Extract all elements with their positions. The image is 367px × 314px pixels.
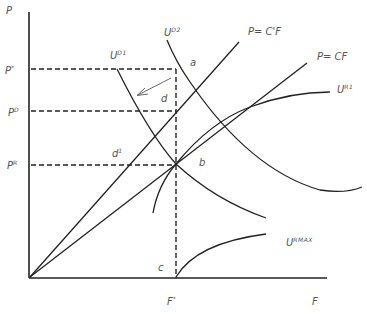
f-star-label: F*: [167, 296, 176, 307]
p-r-label: PR: [7, 160, 18, 171]
arrow-head-icon: [137, 88, 148, 96]
p-star-label: P*: [5, 65, 15, 76]
line-c-prime: [30, 42, 239, 277]
curve-u-r1: [153, 92, 330, 213]
u-r1-label: UR1: [337, 84, 353, 95]
y-axis-label: P: [6, 6, 12, 16]
curve-u-d2: [167, 40, 362, 191]
point-a-label: a: [190, 58, 196, 68]
point-b-label: b: [199, 158, 205, 168]
line-c-prime-label: P= C'F: [248, 27, 281, 37]
point-d1-label: d1: [112, 148, 123, 159]
curve-u-d1: [117, 69, 266, 218]
u-d2-label: UD2: [164, 27, 181, 38]
economics-diagram: [0, 0, 367, 314]
u-d1-label: UD1: [110, 50, 127, 61]
point-d-label: d: [161, 94, 167, 104]
x-axis-label: F: [312, 297, 318, 307]
line-c-label: P= CF: [317, 52, 347, 62]
point-c-label: c: [158, 263, 164, 273]
curve-u-rmax: [176, 234, 266, 277]
u-rmax-label: URMAX: [286, 237, 313, 248]
line-c: [30, 63, 307, 277]
p-d-label: PD: [8, 107, 19, 118]
